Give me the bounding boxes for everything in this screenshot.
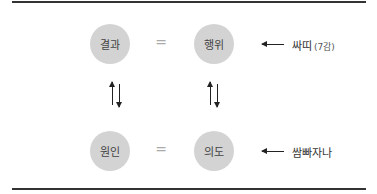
left-arrow-icon [262, 151, 284, 152]
equals-sign-bottom: = [151, 141, 171, 157]
node-cause: 원인 [90, 131, 130, 171]
left-arrow-icon [262, 44, 284, 45]
up-arrow-icon [112, 82, 113, 105]
node-intention: 의도 [194, 131, 234, 171]
node-action: 행위 [194, 24, 234, 64]
node-cause-label: 원인 [100, 143, 120, 159]
annotation-sati-sub: (7감) [314, 42, 335, 52]
equals-sign-top: = [151, 34, 171, 50]
down-arrow-icon [217, 84, 218, 107]
annotation-sampajanna: 쌈빠자나 [292, 144, 332, 160]
node-result: 결과 [90, 24, 130, 64]
node-result-label: 결과 [100, 36, 120, 52]
bottom-rule [12, 188, 366, 190]
top-rule [12, 1, 366, 3]
node-intention-label: 의도 [204, 143, 224, 159]
annotation-sati-text: 싸띠 [292, 40, 312, 53]
node-action-label: 행위 [204, 36, 224, 52]
down-arrow-icon [119, 84, 120, 107]
up-arrow-icon [210, 82, 211, 105]
annotation-sati: 싸띠(7감) [292, 37, 335, 53]
